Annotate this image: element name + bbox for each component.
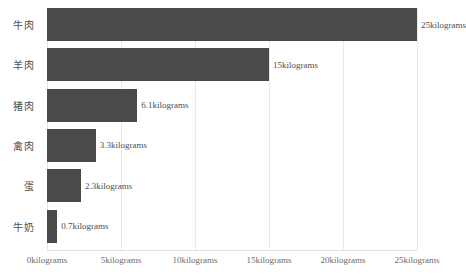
x-axis-tick-2: 10kilograms xyxy=(173,256,218,265)
x-axis-tick-labels: 0kilograms 5kilograms 10kilograms 15kilo… xyxy=(0,256,464,276)
bar-0[interactable] xyxy=(47,8,417,41)
y-axis-label-0: 牛肉 xyxy=(13,8,35,41)
x-axis-tick-1: 5kilograms xyxy=(101,256,142,265)
y-axis-label-5: 牛奶 xyxy=(13,210,35,243)
y-axis-label-2: 猪肉 xyxy=(13,89,35,122)
x-axis-tick-4: 20kilograms xyxy=(321,256,366,265)
bar-2[interactable] xyxy=(47,89,137,122)
bar-value-label-2: 6.1kilograms xyxy=(137,101,188,110)
bar-value-label-3: 3.3kilograms xyxy=(96,141,147,150)
x-axis-line xyxy=(47,250,417,251)
bar-3[interactable] xyxy=(47,129,96,162)
bar-value-label-5: 0.7kilograms xyxy=(57,222,108,231)
bar-row: 3.3kilograms xyxy=(47,129,417,162)
plot-area: 25kilograms 15kilograms 6.1kilograms 3.3… xyxy=(47,8,417,250)
bar-row: 2.3kilograms xyxy=(47,169,417,202)
bar-row: 25kilograms xyxy=(47,8,417,41)
bar-1[interactable] xyxy=(47,48,269,81)
bar-value-label-0: 25kilograms xyxy=(417,20,466,29)
y-axis-label-1: 羊肉 xyxy=(13,48,35,81)
x-axis-tick-5: 25kilograms xyxy=(395,256,440,265)
y-axis-label-3: 禽肉 xyxy=(13,129,35,162)
gridline-5 xyxy=(417,8,418,250)
bar-rows: 25kilograms 15kilograms 6.1kilograms 3.3… xyxy=(47,8,417,250)
x-axis-tick-0: 0kilograms xyxy=(27,256,68,265)
bar-row: 6.1kilograms xyxy=(47,89,417,122)
y-axis-category-labels: 牛肉 羊肉 猪肉 禽肉 蛋 牛奶 xyxy=(0,8,41,250)
bar-row: 15kilograms xyxy=(47,48,417,81)
bar-value-label-1: 15kilograms xyxy=(269,60,318,69)
bar-4[interactable] xyxy=(47,169,81,202)
bar-value-label-4: 2.3kilograms xyxy=(81,181,132,190)
bar-5[interactable] xyxy=(47,210,57,243)
y-axis-label-4: 蛋 xyxy=(24,169,35,202)
x-axis-tick-3: 15kilograms xyxy=(247,256,292,265)
bar-row: 0.7kilograms xyxy=(47,210,417,243)
